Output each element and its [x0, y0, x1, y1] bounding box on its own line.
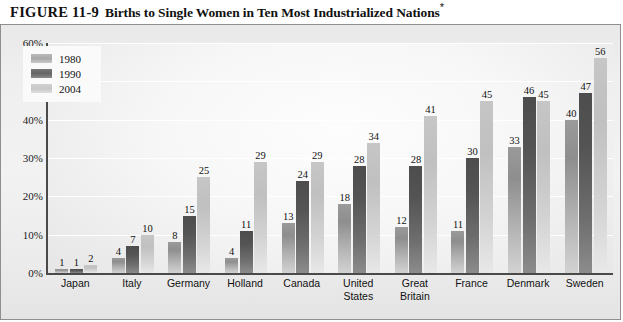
x-axis-tick-label: Holland — [217, 277, 274, 290]
bar-value-label: 24 — [297, 169, 308, 180]
bar-value-label: 1 — [74, 257, 79, 268]
legend-item: 1980 — [31, 51, 95, 66]
bar[interactable]: 28 — [353, 166, 366, 273]
y-axis-tick-label: 30% — [3, 152, 43, 164]
x-axis-tick-label: France — [443, 277, 500, 290]
x-axis-tick-label: Great Britain — [387, 277, 444, 302]
x-axis-tick-label: Denmark — [500, 277, 557, 290]
y-axis-tick-label: 20% — [3, 190, 43, 202]
bar-value-label: 28 — [354, 154, 365, 165]
bar[interactable]: 56 — [594, 58, 607, 273]
bar-value-label: 15 — [184, 204, 195, 215]
bar-group: 41129 — [217, 43, 274, 273]
legend-item: 2004 — [31, 81, 95, 96]
legend-label-1980: 1980 — [59, 53, 81, 65]
legend: 1980 1990 2004 — [23, 46, 101, 102]
bar-group: 404756 — [556, 43, 613, 273]
bar[interactable]: 11 — [451, 231, 464, 273]
bar[interactable]: 4 — [112, 258, 125, 273]
bar-value-label: 34 — [369, 131, 380, 142]
bar-group: 122841 — [387, 43, 444, 273]
bar[interactable]: 30 — [466, 158, 479, 273]
bar-value-label: 11 — [241, 219, 251, 230]
bar-value-label: 11 — [453, 219, 463, 230]
bar[interactable]: 29 — [311, 162, 324, 273]
bar-value-label: 4 — [229, 246, 234, 257]
footnote-marker: * — [440, 1, 444, 13]
bar[interactable]: 13 — [282, 223, 295, 273]
bar-value-label: 45 — [538, 89, 549, 100]
bar-value-label: 30 — [467, 146, 478, 157]
bar-group: 334645 — [500, 43, 557, 273]
x-axis-tick-label: Germany — [160, 277, 217, 290]
x-axis-tick-label: United States — [330, 277, 387, 302]
bar[interactable]: 11 — [240, 231, 253, 273]
bar[interactable]: 4 — [225, 258, 238, 273]
bar-value-label: 46 — [524, 85, 535, 96]
legend-label-1990: 1990 — [59, 68, 81, 80]
bar[interactable]: 29 — [254, 162, 267, 273]
legend-label-2004: 2004 — [59, 83, 81, 95]
figure-root: FIGURE 11-9Births to Single Women in Ten… — [0, 0, 623, 322]
bar[interactable]: 18 — [338, 204, 351, 273]
y-axis-tick-label: 10% — [3, 229, 43, 241]
bar-group: 81525 — [160, 43, 217, 273]
bar[interactable]: 25 — [197, 177, 210, 273]
bar-value-label: 45 — [482, 89, 493, 100]
bar-value-label: 8 — [172, 230, 177, 241]
bar-value-label: 29 — [255, 150, 266, 161]
bar-group: 4710 — [104, 43, 161, 273]
bar[interactable]: 24 — [296, 181, 309, 273]
x-axis-line — [46, 273, 613, 275]
bar-value-label: 13 — [283, 211, 294, 222]
y-axis-tick-label: 40% — [3, 114, 43, 126]
figure-number: FIGURE 11-9 — [10, 4, 99, 20]
bar-value-label: 25 — [199, 165, 210, 176]
bar-value-label: 12 — [396, 215, 407, 226]
bar-value-label: 41 — [425, 104, 436, 115]
bar[interactable]: 47 — [579, 93, 592, 273]
bar-value-label: 56 — [595, 46, 606, 57]
x-axis-tick-label: Japan — [47, 277, 104, 290]
bar-group: 113045 — [443, 43, 500, 273]
bar-value-label: 1 — [59, 257, 64, 268]
bar[interactable]: 10 — [141, 235, 154, 273]
bar[interactable]: 12 — [395, 227, 408, 273]
x-axis-tick-label: Canada — [273, 277, 330, 290]
bar-value-label: 33 — [509, 135, 520, 146]
bar-value-label: 2 — [88, 253, 93, 264]
x-axis-tick-labels: JapanItalyGermanyHollandCanadaUnited Sta… — [47, 277, 613, 319]
bar-value-label: 4 — [116, 246, 121, 257]
bar-value-label: 7 — [130, 234, 135, 245]
legend-item: 1990 — [31, 66, 95, 81]
legend-swatch-1990 — [31, 69, 52, 78]
bar[interactable]: 40 — [565, 120, 578, 273]
bar-value-label: 47 — [580, 81, 591, 92]
figure-caption: Births to Single Women in Ten Most Indus… — [105, 5, 440, 20]
legend-swatch-1980 — [31, 54, 52, 63]
bar-value-label: 10 — [142, 223, 153, 234]
bar-value-label: 40 — [566, 108, 577, 119]
plot-area: 1124710815254112913242918283412284111304… — [47, 43, 613, 273]
bar[interactable]: 46 — [523, 97, 536, 273]
bar-group: 132429 — [273, 43, 330, 273]
bar[interactable]: 41 — [424, 116, 437, 273]
x-axis-tick-label: Italy — [104, 277, 161, 290]
bar[interactable]: 7 — [126, 246, 139, 273]
bar-value-label: 18 — [340, 192, 351, 203]
bar-value-label: 28 — [411, 154, 422, 165]
bar[interactable]: 45 — [480, 101, 493, 274]
bar[interactable]: 2 — [84, 265, 97, 273]
bar[interactable]: 34 — [367, 143, 380, 273]
bar[interactable]: 45 — [537, 101, 550, 274]
bar[interactable]: 33 — [508, 147, 521, 274]
bar-value-label: 29 — [312, 150, 323, 161]
x-axis-tick-label: Sweden — [556, 277, 613, 290]
bar-group: 182834 — [330, 43, 387, 273]
y-axis-tick-label: 0% — [3, 267, 43, 279]
legend-swatch-2004 — [31, 84, 52, 93]
bar[interactable]: 28 — [409, 166, 422, 273]
bar[interactable]: 15 — [183, 216, 196, 274]
bar[interactable]: 8 — [168, 242, 181, 273]
chart-panel: 0%10%20%30%40%50%60% 1124710815254112913… — [0, 24, 621, 320]
